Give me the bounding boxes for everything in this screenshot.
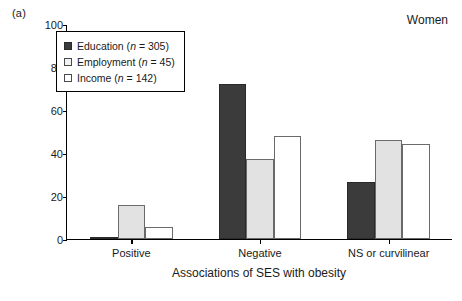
x-tick-label: NS or curvilinear [348, 247, 429, 259]
legend-swatch-employment-icon [64, 58, 72, 66]
y-tick-label: 60 [41, 106, 63, 117]
x-tick-mark [131, 239, 132, 244]
y-tick-mark [63, 240, 68, 241]
bar-education-negative [219, 84, 247, 239]
legend-swatch-income-icon [64, 74, 72, 82]
bar-employment-positive [118, 205, 146, 239]
panel-label: (a) [12, 7, 26, 19]
legend-label-income: Income (n = 142) [77, 72, 157, 84]
x-tick-label: Negative [238, 247, 281, 259]
y-tick-mark [63, 111, 68, 112]
bar-income-positive [145, 227, 173, 239]
legend-swatch-education-icon [64, 42, 72, 50]
x-tick-mark [260, 239, 261, 244]
y-tick-mark [63, 154, 68, 155]
legend-item-income: Income (n = 142) [64, 70, 175, 85]
legend-label-education: Education (n = 305) [77, 40, 169, 52]
bar-income-ns-or-curvilinear [402, 144, 430, 239]
legend-label-employment: Employment (n = 45) [77, 56, 175, 68]
legend-item-education: Education (n = 305) [64, 38, 175, 53]
x-tick-label: Positive [112, 247, 151, 259]
bar-employment-negative [246, 159, 274, 239]
y-tick-mark [63, 197, 68, 198]
bar-education-positive [90, 237, 118, 239]
chart-legend: Education (n = 305)Employment (n = 45)In… [56, 31, 185, 92]
legend-item-employment: Employment (n = 45) [64, 54, 175, 69]
bar-employment-ns-or-curvilinear [375, 140, 403, 239]
bar-education-ns-or-curvilinear [347, 182, 375, 239]
y-tick-label: 40 [41, 149, 63, 160]
y-tick-label: 20 [41, 192, 63, 203]
bar-income-negative [274, 136, 302, 239]
y-tick-label: 100 [41, 20, 63, 31]
y-tick-mark [63, 25, 68, 26]
figure-panel-a: (a) Women Percentage of studies 02040608… [0, 0, 462, 301]
x-axis-title: Associations of SES with obesity [66, 266, 452, 280]
x-tick-mark [389, 239, 390, 244]
y-tick-label: 0 [41, 235, 63, 246]
